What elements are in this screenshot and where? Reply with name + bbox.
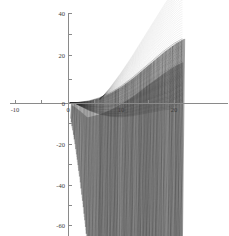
comb-stroke	[94, 99, 95, 236]
comb-stroke-inner	[168, 70, 169, 236]
comb-stroke-inner	[152, 82, 153, 236]
comb-stroke-inner	[139, 91, 140, 236]
comb-stroke-inner	[105, 112, 106, 236]
y-tick	[69, 144, 72, 145]
comb-stroke	[143, 69, 145, 236]
envelope-arc	[70, 67, 183, 105]
comb-stroke-inner	[137, 93, 138, 236]
comb-stroke-inner	[160, 76, 161, 236]
comb-stroke-inner	[158, 77, 159, 236]
comb-stroke-inner	[89, 117, 90, 236]
comb-stroke	[133, 77, 135, 236]
comb-stroke-inner	[75, 108, 76, 145]
comb-stroke	[162, 52, 164, 236]
comb-stroke-inner	[130, 98, 131, 236]
comb-stroke-inner	[102, 113, 103, 236]
comb-stroke-inner	[87, 117, 88, 236]
comb-stroke-inner	[148, 85, 149, 236]
comb-stroke-inner	[90, 117, 91, 236]
comb-stroke-inner	[104, 112, 105, 236]
comb-stroke-inner	[154, 80, 155, 236]
comb-stroke-inner	[180, 63, 181, 236]
comb-stroke-inner	[158, 77, 159, 236]
comb-stroke-inner	[149, 84, 150, 236]
envelope-arc-upper	[100, 0, 183, 100]
comb-stroke-inner	[154, 80, 155, 236]
envelope-arc	[70, 64, 183, 105]
envelope-arc-upper	[100, 21, 183, 99]
comb-stroke-inner	[117, 106, 118, 236]
comb-stroke-inner	[124, 102, 125, 236]
envelope-arc	[70, 70, 183, 106]
comb-stroke-inner	[140, 91, 141, 236]
comb-stroke-inner	[169, 69, 170, 236]
comb-stroke-inner	[98, 115, 99, 236]
comb-stroke	[173, 44, 175, 236]
comb-stroke-inner	[167, 71, 168, 236]
envelope-arc	[70, 50, 183, 103]
comb-stroke-inner	[125, 101, 126, 236]
comb-stroke	[136, 75, 138, 236]
comb-stroke	[86, 101, 87, 227]
comb-stroke-inner	[173, 67, 174, 236]
envelope-arc	[70, 39, 183, 103]
comb-stroke-inner	[151, 82, 152, 236]
comb-stroke-inner	[106, 111, 107, 236]
comb-stroke	[155, 59, 157, 236]
comb-stroke	[86, 101, 87, 234]
x-tick	[15, 100, 16, 103]
comb-stroke-inner	[121, 104, 122, 236]
comb-stroke	[83, 102, 84, 201]
comb-stroke	[144, 68, 146, 236]
comb-stroke-inner	[137, 93, 138, 236]
comb-stroke-inner	[83, 114, 84, 207]
comb-stroke	[89, 101, 90, 236]
comb-stroke	[156, 57, 158, 236]
comb-stroke	[170, 47, 172, 236]
comb-stroke	[95, 99, 96, 236]
comb-stroke-inner	[162, 74, 163, 236]
comb-stroke-inner	[95, 115, 96, 236]
comb-stroke	[98, 98, 99, 236]
comb-stroke	[174, 43, 176, 236]
comb-stroke	[161, 53, 163, 236]
comb-stroke-inner	[142, 89, 143, 236]
comb-stroke	[143, 68, 145, 236]
comb-stroke-inner	[164, 72, 165, 236]
comb-stroke-inner	[121, 104, 122, 236]
comb-stroke-inner	[111, 109, 112, 236]
comb-stroke-inner	[113, 108, 114, 236]
comb-stroke	[166, 49, 168, 236]
comb-stroke-inner	[80, 111, 81, 179]
comb-stroke-inner	[76, 109, 77, 155]
comb-stroke-inner	[146, 86, 147, 236]
comb-stroke-inner	[166, 72, 167, 236]
comb-stroke	[167, 49, 169, 236]
comb-stroke-inner	[103, 113, 104, 236]
comb-stroke	[165, 50, 167, 236]
envelope-arc	[70, 56, 183, 104]
comb-stroke-inner	[85, 116, 86, 224]
comb-stroke	[138, 73, 140, 236]
envelope-arc	[70, 53, 183, 103]
comb-stroke	[103, 96, 104, 236]
comb-stroke	[168, 48, 170, 236]
comb-stroke	[106, 95, 107, 236]
comb-stroke-inner	[182, 63, 183, 236]
comb-stroke-inner	[147, 85, 148, 236]
comb-stroke-inner	[100, 114, 101, 236]
comb-stroke-inner	[111, 109, 112, 236]
comb-stroke	[91, 100, 92, 236]
comb-stroke-inner	[81, 113, 82, 195]
comb-stroke-inner	[107, 111, 108, 236]
comb-stroke	[134, 76, 136, 236]
comb-stroke	[150, 62, 152, 236]
comb-stroke	[173, 44, 175, 236]
comb-stroke-inner	[164, 73, 165, 236]
comb-stroke-inner	[97, 115, 98, 236]
comb-stroke-inner	[75, 108, 76, 147]
comb-stroke-inner	[110, 110, 111, 236]
comb-stroke-inner	[80, 112, 81, 185]
comb-stroke	[182, 39, 184, 236]
envelope-arc-upper	[100, 34, 183, 97]
